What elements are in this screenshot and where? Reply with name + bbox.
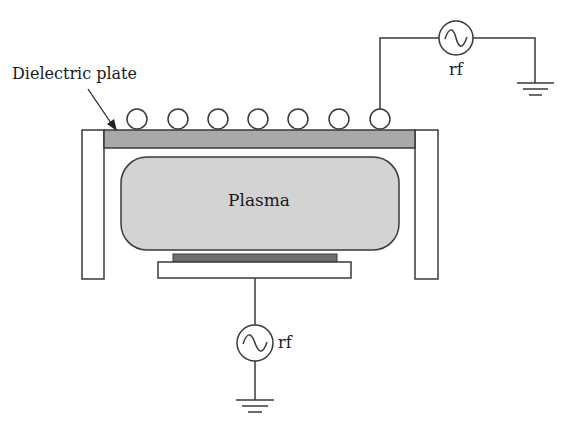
coil-turn-icon (329, 109, 349, 129)
coil-turn-icon (208, 109, 228, 129)
label-arrow (88, 89, 117, 131)
rf-circuit-bottom (236, 278, 274, 412)
dielectric-plate (104, 130, 415, 148)
coil-turn-icon (370, 109, 390, 129)
chamber-wall-right (415, 130, 438, 279)
rf-top-label: rf (449, 60, 463, 79)
coil-turn-icon (127, 109, 147, 129)
chamber-wall-left (82, 130, 104, 279)
coil-turn-icon (248, 109, 268, 129)
rf-bottom-label: rf (278, 333, 292, 352)
substrate-electrode (158, 262, 351, 278)
plasma-label: Plasma (228, 190, 290, 210)
coil-turn-icon (168, 109, 188, 129)
coil-turns (127, 109, 390, 129)
coil-turn-icon (288, 109, 308, 129)
rf-circuit-top (380, 21, 554, 109)
wafer (173, 254, 337, 262)
dielectric-plate-label: Dielectric plate (12, 64, 137, 83)
